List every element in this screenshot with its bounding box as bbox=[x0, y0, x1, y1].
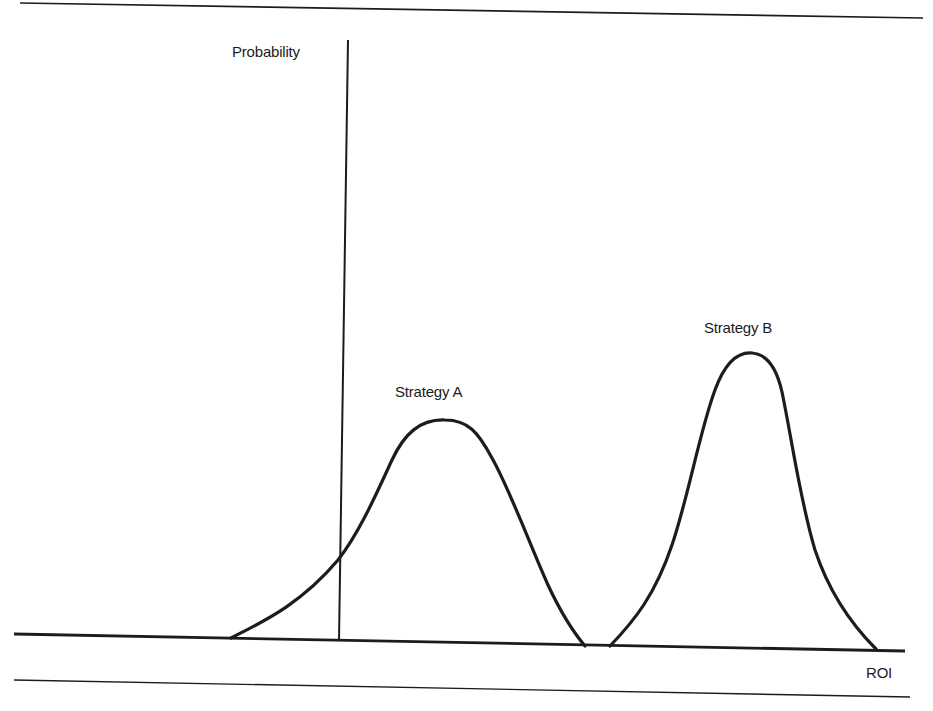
diagram-canvas bbox=[0, 0, 933, 711]
x-axis bbox=[14, 634, 905, 651]
curve-strategy-a bbox=[231, 420, 585, 646]
strategy-a-label: Strategy A bbox=[395, 383, 462, 400]
bottom-rule bbox=[14, 680, 910, 697]
x-axis-label: ROI bbox=[866, 664, 892, 681]
strategy-b-label: Strategy B bbox=[704, 319, 772, 336]
top-rule bbox=[20, 3, 923, 18]
curve-strategy-b bbox=[610, 353, 876, 649]
y-axis-label: Probability bbox=[232, 43, 300, 60]
